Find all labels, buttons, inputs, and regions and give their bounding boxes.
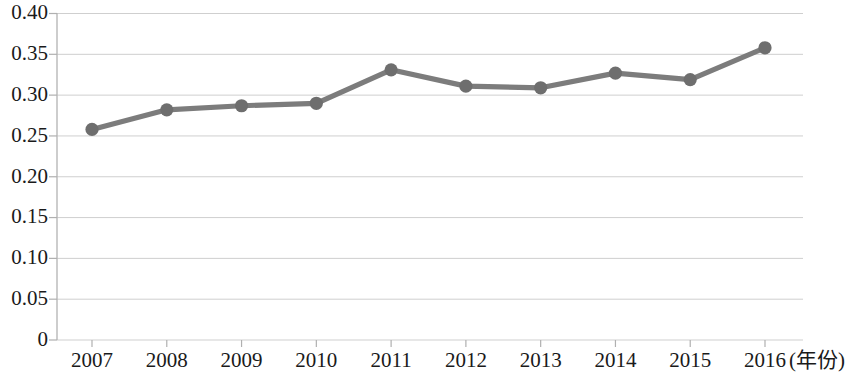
y-axis-tick-label: 0.40 [11,0,48,24]
data-point-marker [385,63,398,76]
x-axis-tick-label: 2008 [146,348,188,372]
x-axis-tick-label: 2007 [71,348,113,372]
x-axis-unit-label: (年份) [789,348,845,372]
chart-background [0,0,857,384]
x-axis-tick-label: 2016 [744,348,786,372]
data-point-marker [534,81,547,94]
data-point-marker [235,99,248,112]
data-point-marker [160,103,173,116]
x-axis-tick-label: 2015 [669,348,711,372]
data-point-marker [85,123,98,136]
x-axis-tick-label: 2009 [221,348,263,372]
y-axis-tick-label: 0.15 [11,204,48,228]
data-point-marker [684,73,697,86]
y-axis-tick-label: 0.35 [11,41,48,65]
x-axis-tick-label: 2010 [295,348,337,372]
y-axis-tick-label: 0 [38,327,49,351]
data-point-marker [758,41,771,54]
chart-canvas: 00.050.100.150.200.250.300.350.40 200720… [0,0,857,384]
x-axis-tick-label: 2013 [520,348,562,372]
x-axis-tick-label: 2011 [370,348,411,372]
data-point-marker [609,66,622,79]
x-axis-tick-label: 2014 [594,348,637,372]
y-axis-tick-label: 0.20 [11,164,48,188]
y-axis-tick-label: 0.05 [11,286,48,310]
y-axis-tick-label: 0.30 [11,82,48,106]
y-axis-tick-labels: 00.050.100.150.200.250.300.350.40 [11,0,48,351]
data-point-marker [310,97,323,110]
line-chart-figure: 00.050.100.150.200.250.300.350.40 200720… [0,0,857,384]
y-axis-tick-label: 0.25 [11,123,48,147]
data-point-marker [459,80,472,93]
x-axis-tick-label: 2012 [445,348,487,372]
y-axis-tick-label: 0.10 [11,245,48,269]
